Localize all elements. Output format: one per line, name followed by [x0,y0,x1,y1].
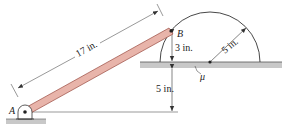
dim-17in-label: 17 in. [74,38,99,59]
diagram-svg: 17 in. A B 3 in. 5 in. 5 in. μ [0,0,282,135]
label-b: B [177,28,183,39]
contact-point-b [169,29,172,32]
semicircle-surface [160,12,260,62]
dim-17in-ext-b [157,4,163,16]
diagram-canvas: 17 in. A B 3 in. 5 in. 5 in. μ [0,0,282,135]
label-radius: 5 in. [219,36,240,56]
label-mu: μ [199,71,205,82]
center-point [208,60,211,63]
label-5in-vertical: 5 in. [156,83,174,94]
label-3in: 3 in. [175,42,193,53]
dim-17in-line-left [18,57,75,88]
dim-17in-ext-a [11,84,18,97]
rod [25,28,173,114]
label-a: A [8,105,16,116]
dim-17in-line-right [100,11,158,43]
